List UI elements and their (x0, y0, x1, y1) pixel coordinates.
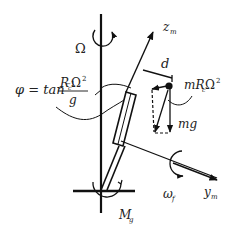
centrifugal-force-label: mR c Ω 2 (184, 77, 220, 93)
svg-text:g: g (69, 93, 77, 107)
svg-text:g: g (129, 216, 134, 224)
resultant-force-arrow (155, 90, 168, 132)
omega-rotation-arrow-icon (93, 30, 113, 46)
omega-f-label: ω f (163, 187, 176, 203)
d-dimension (143, 70, 172, 78)
omega-label: Ω (75, 41, 86, 56)
svg-text:m: m (211, 193, 218, 201)
svg-text:Ω: Ω (205, 78, 215, 92)
d-label: d (161, 56, 169, 71)
svg-text:Ω: Ω (71, 76, 81, 90)
svg-text:z: z (162, 20, 170, 34)
svg-text:2: 2 (216, 77, 220, 85)
z-axis (126, 32, 153, 92)
gyroscope-diagram: Ω φ = tan −1 R c Ω 2 g z m d mR c Ω 2 mg… (0, 0, 226, 236)
y-axis-label: y m (203, 185, 218, 201)
force-leader-line (168, 96, 192, 105)
angle-arc (101, 84, 131, 88)
moment-label: M g (118, 208, 134, 224)
svg-text:2: 2 (82, 75, 86, 83)
gravity-label: mg (178, 117, 197, 131)
svg-text:f: f (171, 195, 176, 203)
centrifugal-force-arrow (152, 86, 167, 89)
svg-text:y: y (203, 185, 211, 199)
z-axis-label: z m (162, 20, 177, 36)
y-axis (121, 141, 217, 178)
phi-formula: φ = tan −1 R c Ω 2 g (15, 75, 88, 107)
svg-text:φ = tan: φ = tan (15, 82, 65, 97)
phi-leader-line (56, 100, 124, 120)
svg-text:m: m (170, 28, 177, 36)
